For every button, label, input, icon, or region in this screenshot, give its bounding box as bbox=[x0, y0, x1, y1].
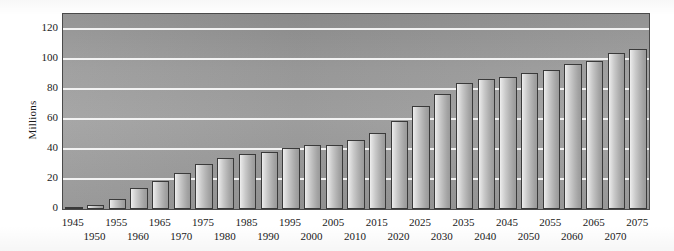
x-tick-label: 2020 bbox=[378, 231, 418, 242]
bar bbox=[499, 77, 516, 209]
plot-area bbox=[62, 13, 650, 210]
bar bbox=[217, 158, 234, 209]
y-tick-label: 80 bbox=[32, 82, 58, 93]
x-tick-label: 2035 bbox=[444, 217, 484, 228]
bar bbox=[130, 188, 147, 209]
x-tick-label: 1965 bbox=[140, 217, 180, 228]
bar-chart: Millions 020406080100120 194519501955196… bbox=[0, 0, 674, 251]
bar bbox=[434, 94, 451, 210]
x-tick-label: 1980 bbox=[205, 231, 245, 242]
x-tick-label: 2070 bbox=[595, 231, 635, 242]
bar bbox=[261, 152, 278, 209]
x-tick-label: 1955 bbox=[96, 217, 136, 228]
bar bbox=[478, 79, 495, 210]
bar bbox=[239, 154, 256, 210]
bar bbox=[608, 53, 625, 209]
bar bbox=[282, 148, 299, 210]
x-tick-label: 2040 bbox=[465, 231, 505, 242]
bar bbox=[152, 181, 169, 210]
x-tick-label: 1985 bbox=[226, 217, 266, 228]
bar bbox=[304, 145, 321, 210]
bar bbox=[412, 106, 429, 210]
bar bbox=[391, 121, 408, 210]
x-tick-label: 1970 bbox=[161, 231, 201, 242]
bar bbox=[326, 145, 343, 210]
x-tick-label: 1990 bbox=[248, 231, 288, 242]
x-tick-label: 1945 bbox=[53, 217, 93, 228]
bar bbox=[521, 73, 538, 210]
x-tick-label: 1995 bbox=[270, 217, 310, 228]
bar bbox=[629, 49, 646, 210]
x-tick-label: 2055 bbox=[530, 217, 570, 228]
x-tick-label: 2050 bbox=[509, 231, 549, 242]
x-tick-label: 1960 bbox=[118, 231, 158, 242]
x-axis-tick-labels: 1945195019551960196519701975198019851990… bbox=[0, 208, 674, 251]
bar bbox=[564, 64, 581, 210]
y-tick-label: 100 bbox=[32, 52, 58, 63]
x-tick-label: 2005 bbox=[313, 217, 353, 228]
bar bbox=[456, 83, 473, 209]
bar bbox=[543, 70, 560, 210]
x-tick-label: 2010 bbox=[335, 231, 375, 242]
bar bbox=[347, 140, 364, 209]
y-tick-label: 20 bbox=[32, 172, 58, 183]
x-tick-label: 1950 bbox=[75, 231, 115, 242]
y-tick-label: 120 bbox=[32, 22, 58, 33]
bar bbox=[586, 61, 603, 210]
x-tick-label: 2045 bbox=[487, 217, 527, 228]
x-tick-label: 2025 bbox=[400, 217, 440, 228]
bar bbox=[369, 133, 386, 210]
x-tick-label: 2060 bbox=[552, 231, 592, 242]
bar bbox=[195, 164, 212, 209]
x-tick-label: 2000 bbox=[292, 231, 332, 242]
x-tick-label: 2075 bbox=[617, 217, 657, 228]
x-tick-label: 2065 bbox=[574, 217, 614, 228]
x-tick-label: 2015 bbox=[357, 217, 397, 228]
x-tick-label: 2030 bbox=[422, 231, 462, 242]
y-tick-label: 60 bbox=[32, 112, 58, 123]
y-tick-label: 40 bbox=[32, 142, 58, 153]
bar bbox=[174, 173, 191, 209]
bar-series bbox=[63, 14, 649, 209]
x-tick-label: 1975 bbox=[183, 217, 223, 228]
